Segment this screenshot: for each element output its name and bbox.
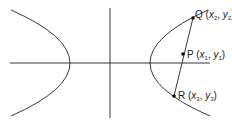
label-q-letter: Q xyxy=(195,9,203,20)
label-point-p: P (x1, y1) xyxy=(187,50,225,63)
label-point-q: Q (x2, y2) xyxy=(195,10,232,23)
label-point-r: R (x3, y3) xyxy=(178,91,217,104)
label-p-close: ) xyxy=(222,49,225,60)
label-r-close: ) xyxy=(214,90,217,101)
point-p xyxy=(181,52,185,56)
label-q-close: ) xyxy=(231,9,232,20)
point-r xyxy=(172,94,176,98)
